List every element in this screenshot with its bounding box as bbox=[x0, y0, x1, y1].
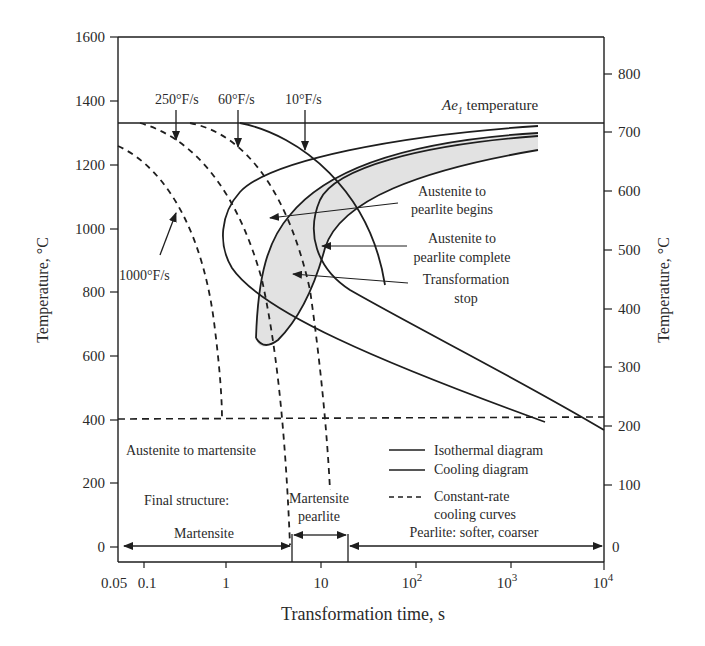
plot-frame bbox=[118, 37, 604, 562]
pearlite-softer-label: Pearlite: softer, coarser bbox=[410, 525, 539, 540]
legend-constant-rate-line1: Constant-rate bbox=[434, 489, 509, 504]
x-axis-labels: 0.05 0.1 1 10 102 103 104 bbox=[101, 571, 614, 591]
x-tick-10000: 104 bbox=[593, 571, 614, 591]
y2-tick-400: 400 bbox=[618, 301, 641, 317]
legend-isothermal-label: Isothermal diagram bbox=[434, 443, 543, 458]
pearlite-complete-line2: pearlite complete bbox=[414, 250, 511, 265]
left-axis-labels: 1600 1400 1200 1000 800 600 400 200 0 bbox=[75, 29, 105, 555]
ttt-diagram: 1600 1400 1200 1000 800 600 400 200 0 Te… bbox=[0, 0, 705, 646]
rate-60-label: 60°F/s bbox=[218, 92, 255, 107]
ae1-label: Ae1 temperature bbox=[441, 97, 539, 116]
constant-rate-cooling-curves bbox=[118, 123, 330, 545]
y-tick-600: 600 bbox=[83, 348, 106, 364]
y-tick-1600: 1600 bbox=[75, 29, 105, 45]
legend-cooling-label: Cooling diagram bbox=[434, 462, 529, 477]
martensite-pearlite-line2: pearlite bbox=[298, 509, 340, 524]
right-axis-labels: 800 700 600 500 400 300 200 100 0 bbox=[612, 66, 641, 555]
x-axis-label: Transformation time, s bbox=[281, 604, 445, 624]
legend-constant-rate-line2: cooling curves bbox=[434, 507, 516, 522]
y2-tick-500: 500 bbox=[618, 242, 641, 258]
left-axis-ticks bbox=[110, 37, 118, 547]
x-tick-1: 1 bbox=[222, 575, 230, 591]
x-tick-100: 102 bbox=[402, 571, 423, 591]
y2-tick-600: 600 bbox=[618, 183, 641, 199]
x-tick-10: 10 bbox=[314, 575, 329, 591]
rate-1000-label: 1000°F/s bbox=[119, 268, 170, 283]
y2-tick-100: 100 bbox=[618, 477, 641, 493]
y-tick-800: 800 bbox=[83, 284, 106, 300]
y2-tick-200: 200 bbox=[618, 418, 641, 434]
y2-tick-300: 300 bbox=[618, 359, 641, 375]
pearlite-complete-line1: Austenite to bbox=[428, 231, 496, 246]
y-tick-400: 400 bbox=[83, 412, 106, 428]
pearlite-begins-line1: Austenite to bbox=[418, 184, 486, 199]
y2-tick-800: 800 bbox=[618, 66, 641, 82]
y-axis-label-right: Temperature, °C bbox=[655, 237, 673, 343]
y-axis-label-left: Temperature, °C bbox=[34, 237, 52, 343]
transformation-stop-line1: Transformation bbox=[423, 272, 510, 287]
x-tick-0.1: 0.1 bbox=[138, 575, 157, 591]
y-tick-1400: 1400 bbox=[75, 93, 105, 109]
y-tick-0: 0 bbox=[98, 539, 106, 555]
x-tick-1000: 103 bbox=[497, 571, 518, 591]
final-structure-label: Final structure: bbox=[144, 493, 229, 508]
martensite-label: Martensite bbox=[174, 526, 234, 541]
martensite-pearlite-line1: Martensite bbox=[289, 491, 349, 506]
x-tick-0.05: 0.05 bbox=[101, 575, 127, 591]
y-tick-1200: 1200 bbox=[75, 157, 105, 173]
y2-tick-700: 700 bbox=[618, 124, 641, 140]
y-tick-200: 200 bbox=[83, 475, 106, 491]
rate-250-label: 250°F/s bbox=[155, 92, 199, 107]
transformation-labels: Austenite to pearlite begins Austenite t… bbox=[411, 184, 510, 306]
transformation-stop-line2: stop bbox=[454, 291, 477, 306]
pearlite-begins-line2: pearlite begins bbox=[411, 202, 493, 217]
y-tick-1000: 1000 bbox=[75, 221, 105, 237]
right-axis-ticks bbox=[604, 74, 612, 485]
y2-tick-0: 0 bbox=[612, 539, 620, 555]
austenite-to-martensite-label: Austenite to martensite bbox=[126, 443, 256, 458]
x-axis-ticks bbox=[144, 562, 604, 570]
rate-10-label: 10°F/s bbox=[285, 92, 322, 107]
legend: Isothermal diagram Cooling diagram Const… bbox=[389, 443, 543, 522]
